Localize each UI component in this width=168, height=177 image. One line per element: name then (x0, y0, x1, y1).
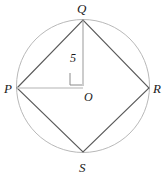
radius-measure-label: 5 (70, 51, 76, 65)
vertex-label-r: R (152, 81, 161, 96)
vertex-label-s: S (79, 160, 86, 175)
circle-with-inscribed-quadrilateral-diagram: P Q R S O 5 (0, 0, 168, 177)
vertex-label-q: Q (77, 1, 87, 16)
vertex-label-p: P (3, 81, 12, 96)
right-angle-marker-icon (70, 73, 82, 85)
center-label-o: O (84, 90, 93, 104)
